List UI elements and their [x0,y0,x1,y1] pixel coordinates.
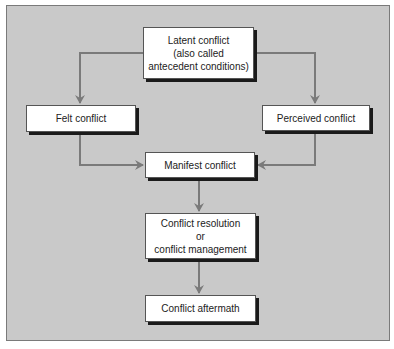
node-text: Felt conflict [56,112,107,125]
node-text: (also called [148,47,249,60]
node-conflict-aftermath: Conflict aftermath [145,295,256,322]
edge-perceived-manifest [258,131,315,165]
node-text: Conflict aftermath [161,302,239,315]
node-conflict-resolution: Conflict resolution or conflict manageme… [145,213,256,259]
edge-latent-perceived [254,53,315,103]
node-text: Manifest conflict [164,159,236,172]
node-text: Perceived conflict [277,112,355,125]
node-text: antecedent conditions) [148,60,249,73]
edge-latent-felt [80,53,143,103]
node-text: Latent conflict [148,34,249,47]
node-manifest-conflict: Manifest conflict [145,152,255,178]
node-text: conflict management [154,243,246,256]
node-latent-conflict: Latent conflict (also called antecedent … [143,27,254,79]
node-text: or [154,230,246,243]
node-felt-conflict: Felt conflict [26,105,136,132]
edge-felt-manifest [80,132,143,165]
node-perceived-conflict: Perceived conflict [262,105,370,131]
node-text: Conflict resolution [154,217,246,230]
